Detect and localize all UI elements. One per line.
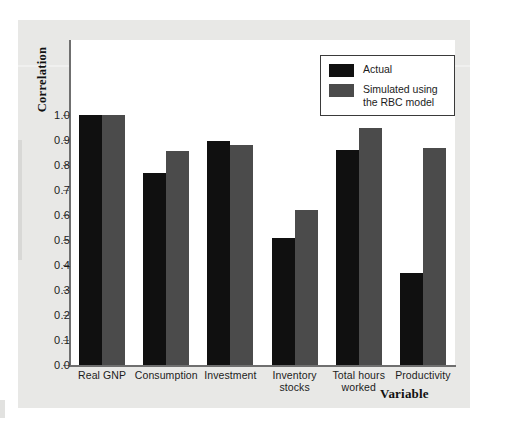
bar-group bbox=[79, 40, 125, 365]
y-axis-tick-label: 0.5 bbox=[40, 234, 70, 246]
legend-color-swatch bbox=[329, 84, 354, 97]
y-axis-title: Correlation bbox=[35, 20, 50, 140]
bar-actual bbox=[143, 173, 166, 366]
legend-item: Simulated using the RBC model bbox=[329, 83, 446, 108]
bar-group bbox=[272, 40, 318, 365]
y-axis-tick-label: 0.8 bbox=[40, 159, 70, 171]
bar-simulated bbox=[102, 115, 125, 365]
y-axis-tick-label: 0.3 bbox=[40, 284, 70, 296]
legend-item: Actual bbox=[329, 63, 446, 77]
y-axis-tick-label: 0.1 bbox=[40, 334, 70, 346]
bar-group bbox=[143, 40, 189, 365]
bar-simulated bbox=[166, 151, 189, 365]
bar-actual bbox=[207, 141, 230, 365]
bar-actual bbox=[400, 273, 423, 366]
legend-item-label: Actual bbox=[363, 63, 392, 76]
x-axis-line bbox=[69, 365, 456, 367]
legend-color-swatch bbox=[329, 64, 354, 77]
bar-simulated bbox=[295, 210, 318, 365]
bar-simulated bbox=[423, 148, 446, 366]
legend-item-label: Simulated using the RBC model bbox=[363, 83, 438, 108]
bar-actual bbox=[272, 238, 295, 366]
y-axis-tick-label: 0.2 bbox=[40, 309, 70, 321]
bar-simulated bbox=[230, 145, 253, 365]
bar-chart: 0.00.10.20.30.40.50.60.70.80.91.0 Correl… bbox=[0, 0, 505, 431]
bar-actual bbox=[79, 115, 102, 365]
bar-simulated bbox=[359, 128, 382, 366]
bar-actual bbox=[336, 150, 359, 365]
y-axis-tick-label: 0.7 bbox=[40, 184, 70, 196]
x-axis-title: Variable bbox=[380, 386, 429, 402]
y-axis-tick-label: 0.6 bbox=[40, 209, 70, 221]
chart-legend: ActualSimulated using the RBC model bbox=[320, 55, 455, 116]
bar-group bbox=[207, 40, 253, 365]
x-axis-category-label: Productivity bbox=[384, 369, 462, 381]
y-axis-tick-label: 0.4 bbox=[40, 259, 70, 271]
